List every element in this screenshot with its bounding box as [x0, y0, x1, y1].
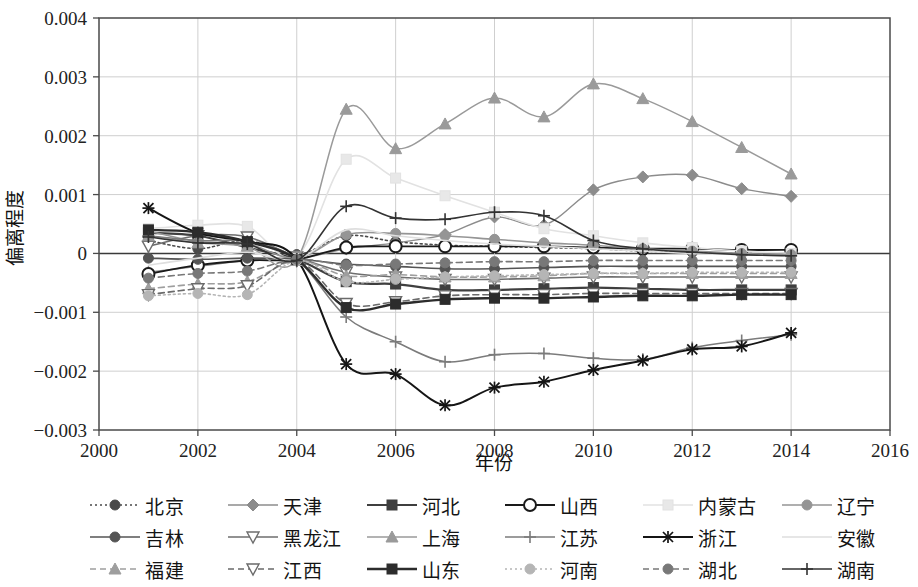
y-tick-label: −0.001	[34, 302, 87, 323]
data-point-marker	[588, 268, 598, 278]
legend-swatch-安徽	[780, 528, 834, 546]
data-point-marker	[588, 255, 598, 265]
data-point-marker	[489, 382, 501, 394]
data-point-marker	[638, 268, 648, 278]
series-layer	[142, 78, 797, 411]
y-tick-label: 0.002	[44, 126, 87, 147]
data-point-marker	[637, 355, 649, 367]
legend-swatch-山西	[503, 496, 557, 514]
legend-item-河北[interactable]: 河北	[365, 492, 503, 519]
data-point-marker	[439, 213, 451, 225]
legend-item-浙江[interactable]: 浙江	[641, 524, 779, 551]
legend-swatch-内蒙古	[641, 496, 695, 514]
data-point-marker	[242, 253, 252, 263]
data-point-marker	[736, 340, 748, 352]
x-tick-label: 2010	[574, 440, 612, 461]
legend-item-江西[interactable]: 江西	[226, 556, 364, 583]
y-tick-label: −0.003	[34, 420, 87, 441]
data-point-marker	[663, 500, 673, 510]
data-point-marker	[340, 200, 352, 212]
data-point-marker	[687, 291, 697, 301]
legend-item-湖北[interactable]: 湖北	[641, 556, 779, 583]
data-point-marker	[341, 154, 351, 164]
legend-label: 安徽	[837, 524, 876, 551]
data-point-marker	[801, 563, 813, 575]
data-point-marker	[142, 202, 154, 214]
data-point-marker	[340, 358, 352, 370]
data-point-marker	[802, 500, 812, 510]
y-tick-label: −0.002	[34, 361, 87, 382]
data-point-marker	[524, 499, 536, 511]
x-tick-label: 2004	[278, 440, 317, 461]
legend-swatch-河北	[365, 496, 419, 514]
legend-item-福建[interactable]: 福建	[88, 556, 226, 583]
legend-item-吉林[interactable]: 吉林	[88, 524, 226, 551]
data-point-marker	[638, 255, 648, 265]
legend-item-江苏[interactable]: 江苏	[503, 524, 641, 551]
chart-legend: 北京天津河北山西内蒙古辽宁吉林黑龙江上海江苏浙江安徽福建江西山东河南湖北湖南	[88, 489, 918, 587]
data-point-marker	[110, 532, 120, 542]
data-point-marker	[387, 500, 397, 510]
x-axis-title: 年份	[475, 453, 513, 474]
data-point-marker	[390, 240, 402, 252]
data-point-marker	[785, 327, 797, 339]
data-point-marker	[490, 293, 500, 303]
legend-swatch-北京	[88, 496, 142, 514]
legend-label: 湖南	[837, 556, 876, 583]
legend-label: 内蒙古	[698, 492, 757, 519]
legend-label: 北京	[145, 492, 184, 519]
legend-label: 辽宁	[837, 492, 876, 519]
legend-swatch-河南	[503, 560, 557, 578]
data-point-marker	[387, 564, 397, 574]
legend-item-安徽[interactable]: 安徽	[780, 524, 918, 551]
data-point-marker	[142, 241, 154, 252]
data-point-marker	[439, 240, 451, 252]
data-point-marker	[341, 303, 351, 313]
legend-item-山西[interactable]: 山西	[503, 492, 641, 519]
legend-item-北京[interactable]: 北京	[88, 492, 226, 519]
legend-label: 江西	[283, 556, 322, 583]
legend-item-辽宁[interactable]: 辽宁	[780, 492, 918, 519]
data-point-marker	[439, 399, 451, 411]
data-point-marker	[247, 499, 259, 511]
chart-container: 0.0040.0030.0020.0010−0.001−0.002−0.0032…	[0, 0, 918, 587]
legend-swatch-湖南	[780, 560, 834, 578]
data-point-marker	[539, 257, 549, 267]
legend-label: 天津	[283, 492, 322, 519]
legend-swatch-浙江	[641, 528, 695, 546]
data-point-marker	[341, 260, 351, 270]
data-point-marker	[786, 290, 796, 300]
series-湖南	[142, 200, 797, 266]
y-tick-label: 0.001	[44, 185, 87, 206]
y-tick-label: 0	[78, 243, 88, 264]
data-point-marker	[587, 364, 599, 376]
data-point-marker	[391, 173, 401, 183]
legend-item-黑龙江[interactable]: 黑龙江	[226, 524, 364, 551]
data-point-marker	[637, 93, 649, 104]
legend-item-湖南[interactable]: 湖南	[780, 556, 918, 583]
legend-label: 山东	[422, 556, 461, 583]
data-point-marker	[490, 271, 500, 281]
legend-swatch-福建	[88, 560, 142, 578]
series-浙江	[142, 202, 797, 411]
data-point-marker	[340, 242, 352, 254]
data-point-marker	[490, 257, 500, 267]
data-point-marker	[390, 368, 402, 380]
data-point-marker	[440, 272, 450, 282]
legend-item-上海[interactable]: 上海	[365, 524, 503, 551]
legend-label: 福建	[145, 556, 184, 583]
legend-label: 山西	[560, 492, 599, 519]
legend-item-河南[interactable]: 河南	[503, 556, 641, 583]
data-point-marker	[686, 116, 698, 127]
data-point-marker	[524, 531, 536, 543]
legend-swatch-上海	[365, 528, 419, 546]
legend-item-内蒙古[interactable]: 内蒙古	[641, 492, 779, 519]
legend-item-山东[interactable]: 山东	[365, 556, 503, 583]
data-point-marker	[439, 118, 451, 129]
legend-item-天津[interactable]: 天津	[226, 492, 364, 519]
data-point-marker	[662, 531, 674, 543]
data-point-marker	[440, 258, 450, 268]
data-point-marker	[538, 347, 550, 359]
x-tick-label: 2006	[377, 440, 415, 461]
data-point-marker	[539, 224, 549, 234]
